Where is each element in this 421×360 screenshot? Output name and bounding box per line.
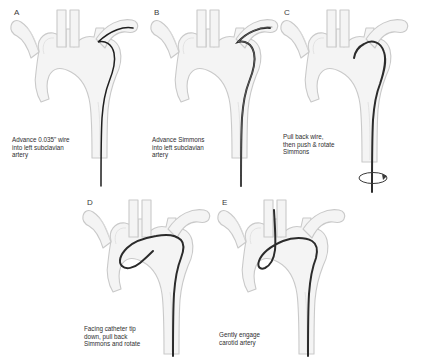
panel-d: D Facing catheter tip down, pu: [60, 190, 215, 360]
panel-b-artwork: [148, 6, 280, 186]
panel-c-caption: Pull back wire, then push & rotate Simmo…: [283, 133, 334, 156]
panel-c: C: [275, 0, 421, 195]
panel-e-caption: Gently engage carotid artery: [219, 331, 260, 346]
aortic-arch-catheterization-figure: A: [0, 0, 421, 360]
panel-d-caption: Facing catheter tip down, pull back Simm…: [84, 325, 140, 348]
panel-b-caption: Advance Simmons into left subclavian art…: [152, 136, 205, 159]
panel-e: E Gently engage carotid artery: [200, 190, 355, 360]
panel-a-caption: Advance 0.035" wire into left subclavian…: [12, 136, 70, 159]
panel-c-artwork: [278, 6, 416, 192]
panel-a: A: [0, 0, 140, 190]
panel-b: B Advance Simmons int: [140, 0, 280, 190]
panel-a-artwork: [8, 6, 140, 186]
